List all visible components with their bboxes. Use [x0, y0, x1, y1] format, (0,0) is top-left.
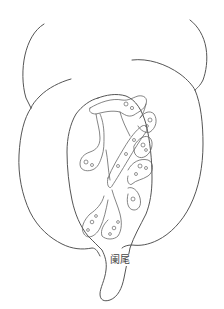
cecum-contour — [67, 95, 152, 301]
crypt-right-lower — [127, 159, 152, 184]
outer-contour-left-inner — [31, 79, 71, 108]
outer-contour-right-inner — [132, 60, 195, 90]
diagram-canvas: 阑尾 — [0, 0, 224, 309]
outer-body-contour — [19, 108, 100, 256]
crypt-right-small — [127, 187, 140, 210]
appendix-label: 阑尾 — [109, 254, 131, 266]
crypt-left-lower — [82, 196, 108, 237]
crypt-chain-left — [80, 114, 104, 171]
outer-contour-right-top — [190, 20, 207, 90]
outer-body-contour-right — [122, 90, 203, 248]
